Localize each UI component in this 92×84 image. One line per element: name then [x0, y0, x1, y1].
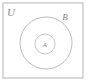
venn-diagram: U B A [0, 0, 92, 84]
venn-diagram-canvas: U B A [0, 0, 92, 84]
universe-label: U [7, 6, 16, 18]
set-b-label: B [62, 12, 68, 22]
set-a-label: A [42, 41, 48, 49]
